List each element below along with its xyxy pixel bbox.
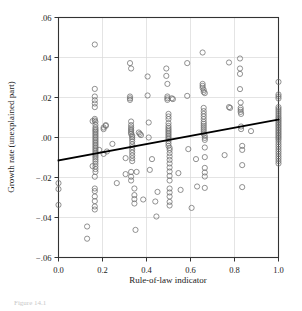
x-tick-label: 0.0 [53,265,64,275]
y-tick-label: −.06 [36,253,51,263]
figure-container: 0.00.20.40.60.81.0 .06.04.02.00−.02−.04−… [0,0,302,311]
y-tick-label: −.02 [36,173,51,183]
y-tick-label: .00 [41,133,52,143]
x-axis-title: Rule-of-law indicator [129,275,207,285]
x-tick-label: 1.0 [273,265,284,275]
y-axis-title: Growth rate (unexplained part) [6,81,16,193]
x-tick-label: 0.8 [229,265,240,275]
x-tick-label: 0.4 [141,265,152,275]
y-tick-label: −.04 [36,213,52,223]
figure-caption: Figure 14.1 [14,299,47,307]
y-tick-label: .06 [41,13,52,23]
y-tick-label: .04 [41,53,52,63]
x-tick-label: 0.2 [97,265,108,275]
scatter-plot: 0.00.20.40.60.81.0 .06.04.02.00−.02−.04−… [0,0,302,311]
x-tick-label: 0.6 [185,265,196,275]
y-tick-label: .02 [41,93,52,103]
